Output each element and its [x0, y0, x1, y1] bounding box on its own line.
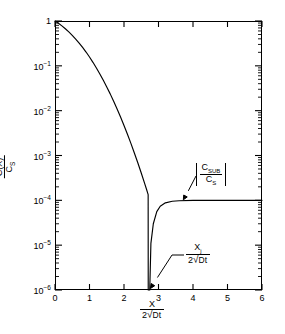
junction-radicand: Dt: [199, 254, 209, 265]
y-tick-label: 10−2: [6, 105, 51, 116]
y-tick-label: 10−1: [6, 60, 51, 71]
sqrt-icon: √Dt: [147, 310, 162, 321]
junction-num-sub: j: [200, 248, 201, 254]
y-axis-title-den-sub: S: [9, 162, 16, 166]
y-tick-label: 1: [6, 17, 51, 26]
annotation-leader-lines: [150, 176, 196, 289]
x-tick-label: 5: [225, 294, 230, 303]
x-tick-label: 6: [259, 294, 264, 303]
y-axis-title: C(X) CS: [0, 156, 17, 179]
substrate-leader-line: [188, 176, 196, 191]
junction-depth-annotation: Xj 2√Dt: [186, 243, 210, 266]
y-axis-title-den-main: C: [4, 166, 14, 173]
sqrt-icon: √Dt: [193, 255, 208, 266]
substrate-ratio-numerator: CSUB: [200, 163, 223, 174]
y-tick-label: 10−5: [6, 240, 51, 251]
absolute-value-bars: CSUB CS: [196, 163, 226, 186]
junction-leader-line: [157, 255, 184, 278]
x-axis-title-fraction: X 2√Dt: [140, 300, 164, 321]
y-axis-title-fraction: C(X) CS: [0, 156, 17, 179]
x-axis-title-numerator: X: [140, 300, 164, 309]
figure-container: 110−110−210−310−410−510−6 0123456 C(X) C…: [0, 0, 285, 334]
y-tick-label: 10−6: [6, 285, 51, 296]
substrate-ratio-fraction: CSUB CS: [200, 163, 223, 186]
y-tick-label: 10−4: [6, 195, 51, 206]
x-axis-title: X 2√Dt: [140, 300, 164, 321]
junction-depth-numerator: Xj: [186, 243, 210, 254]
substrate-ratio-annotation: CSUB CS: [196, 163, 226, 186]
x-tick-label: 1: [87, 294, 92, 303]
y-axis-minor-ticks: [55, 23, 262, 276]
y-axis-major-ticks: [55, 21, 262, 290]
substrate-arrowhead: [183, 195, 187, 200]
substrate-num-sub: SUB: [208, 168, 220, 174]
junction-depth-denominator: 2√Dt: [186, 254, 210, 266]
substrate-ratio-denominator: CS: [200, 174, 223, 186]
x-tick-label: 0: [52, 294, 57, 303]
x-axis-major-ticks: [55, 21, 262, 290]
junction-depth-fraction: Xj 2√Dt: [186, 243, 210, 266]
x-tick-label: 2: [121, 294, 126, 303]
substrate-den-sub: S: [212, 180, 216, 186]
x-axis-title-radicand: Dt: [153, 309, 163, 320]
junction-arrowhead: [150, 283, 154, 288]
x-tick-label: 4: [190, 294, 195, 303]
y-axis-title-denominator: CS: [4, 156, 17, 179]
diffusion-profile-curve: [55, 21, 262, 290]
x-axis-title-denominator: 2√Dt: [140, 309, 164, 321]
